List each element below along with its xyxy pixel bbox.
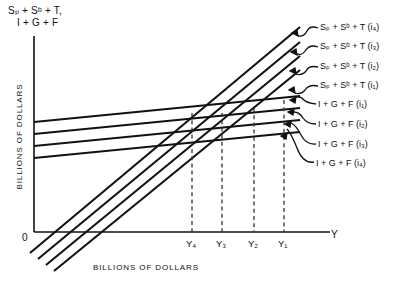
y-axis-variable-label-line1: Sₚ + Sᵇ + T, [8,5,62,16]
leader-arrow-investment-i1 [296,97,316,104]
leader-arrow-savings-i1 [295,86,318,94]
leader-arrow-investment-i2 [294,112,316,124]
curve-label-savings-i3: Sₚ + Sᵇ + T (i₃) [320,41,379,51]
savings-curve-i2 [46,56,300,265]
arrowhead-savings-i4 [292,30,298,36]
tick-label-y1: Y₁ [278,238,288,249]
arrowhead-savings-i2 [290,68,296,74]
savings-curves [30,27,300,271]
savings-curve-i3 [38,42,300,259]
leader-arrow-savings-i4 [298,27,318,36]
arrowhead-savings-i1 [289,87,295,93]
tick-label-y3: Y₃ [216,238,226,249]
investment-curve-i4 [34,132,300,158]
savings-curve-i4 [30,27,300,253]
investment-curve-i1 [34,96,300,122]
investment-curve-i2 [34,108,300,134]
tick-label-y4: Y₄ [186,238,196,249]
leader-arrows [281,27,318,162]
y-axis-title: BILLIONS OF DOLLARS [15,77,24,197]
curve-label-savings-i4: Sₚ + Sᵇ + T (i₄) [320,22,379,32]
x-axis-end-label: Y [331,229,338,240]
curve-label-investment-i1: I + G + F (i₁) [318,99,367,109]
origin-label: 0 [22,232,28,243]
investment-curve-i3 [34,120,300,146]
investment-curves [34,96,300,158]
curve-label-investment-i2: I + G + F (i₂) [318,119,368,129]
leader-arrow-savings-i3 [297,46,318,55]
x-axis-title: BILLIONS OF DOLLARS [93,263,199,272]
y-axis-variable-label-line2: I + G + F [8,17,62,29]
tick-label-y2: Y₂ [248,238,258,249]
y-axis-variable-label: Sₚ + Sᵇ + T, I + G + F [8,5,62,29]
curve-label-investment-i3: I + G + F (i₃) [318,139,368,149]
curve-label-savings-i2: Sₚ + Sᵇ + T (i₂) [320,61,379,71]
curve-label-savings-i1: Sₚ + Sᵇ + T (i₁) [320,80,379,90]
curve-label-investment-i4: I + G + F (i₄) [316,158,366,168]
